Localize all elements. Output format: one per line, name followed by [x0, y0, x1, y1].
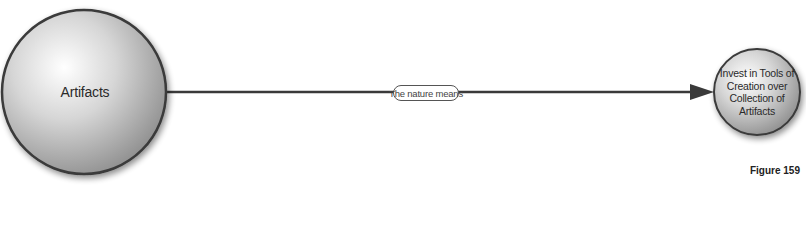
node-label-invest-in-tools: Invest in Tools of Creation over Collect…	[714, 62, 800, 122]
edge-label: The nature means	[393, 85, 459, 101]
node-label-artifacts: Artifacts	[20, 80, 150, 104]
figure-caption: Figure 159	[750, 165, 800, 176]
arrowhead-icon	[690, 84, 714, 100]
